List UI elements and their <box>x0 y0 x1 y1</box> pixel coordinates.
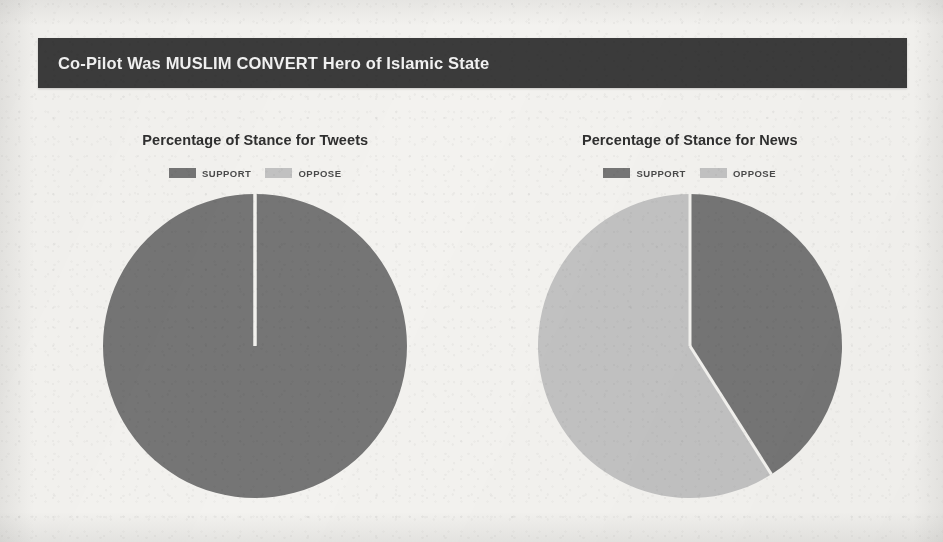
legend-label-support: SUPPORT <box>636 168 685 179</box>
chart-title-tweets: Percentage of Stance for Tweets <box>142 132 368 148</box>
chart-title-news: Percentage of Stance for News <box>582 132 798 148</box>
legend-entry-support-news[interactable]: SUPPORT <box>603 168 685 179</box>
legend-swatch-support-icon <box>603 168 630 178</box>
chart-panel-news: Percentage of Stance for News SUPPORT OP… <box>473 110 908 530</box>
legend-swatch-support-icon <box>169 168 196 178</box>
legend-swatch-oppose-icon <box>700 168 727 178</box>
legend-label-oppose: OPPOSE <box>733 168 776 179</box>
charts-row: Percentage of Stance for Tweets SUPPORT … <box>38 110 907 530</box>
headline-title: Co-Pilot Was MUSLIM CONVERT Hero of Isla… <box>38 54 489 73</box>
pie-wrap-news <box>535 191 845 501</box>
legend-label-oppose: OPPOSE <box>298 168 341 179</box>
headline-banner: Co-Pilot Was MUSLIM CONVERT Hero of Isla… <box>38 38 907 88</box>
legend-tweets: SUPPORT OPPOSE <box>169 167 342 179</box>
screenshot-page: Co-Pilot Was MUSLIM CONVERT Hero of Isla… <box>0 0 943 542</box>
pie-chart-news[interactable] <box>535 191 845 501</box>
pie-chart-tweets[interactable] <box>100 191 410 501</box>
legend-entry-oppose-news[interactable]: OPPOSE <box>700 168 776 179</box>
pie-wrap-tweets <box>100 191 410 501</box>
legend-entry-support-tweets[interactable]: SUPPORT <box>169 168 251 179</box>
legend-entry-oppose-tweets[interactable]: OPPOSE <box>265 168 341 179</box>
legend-news: SUPPORT OPPOSE <box>603 167 776 179</box>
legend-label-support: SUPPORT <box>202 168 251 179</box>
chart-panel-tweets: Percentage of Stance for Tweets SUPPORT … <box>38 110 473 530</box>
legend-swatch-oppose-icon <box>265 168 292 178</box>
